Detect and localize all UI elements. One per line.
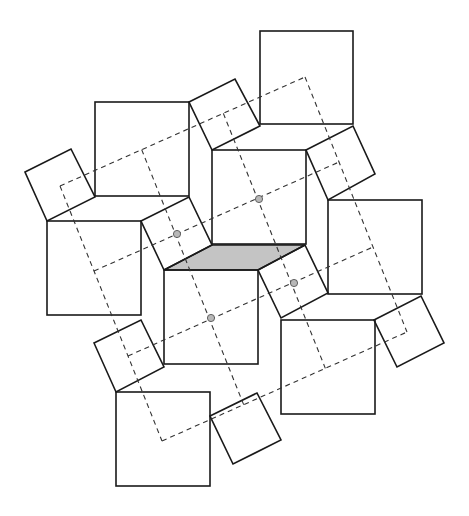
large-square-B: [260, 31, 353, 124]
dashed-grid-line: [60, 186, 162, 441]
dashed-grid-line: [60, 77, 305, 186]
shaded-parallelogram: [164, 245, 305, 270]
dashed-grid-line: [162, 332, 407, 441]
dashed-grid-line: [142, 150, 244, 405]
small-squares-layer: [25, 79, 444, 464]
pythagorean-tiling-diagram: [0, 0, 469, 516]
grid-point-dot: [255, 195, 262, 202]
large-square-A: [95, 102, 189, 196]
small-square-s4: [306, 126, 375, 200]
grid-point-dot: [173, 230, 180, 237]
small-square-s8: [374, 296, 444, 367]
large-square-C: [47, 221, 141, 315]
small-square-s1: [25, 149, 95, 221]
large-square-H: [116, 392, 210, 486]
large-square-F: [328, 200, 422, 294]
small-square-s2: [189, 79, 260, 150]
grid-point-dot: [290, 279, 297, 286]
shaded-parallelogram-layer: [164, 245, 305, 270]
dashed-grid-line: [223, 113, 325, 368]
grid-point-dot: [207, 314, 214, 321]
